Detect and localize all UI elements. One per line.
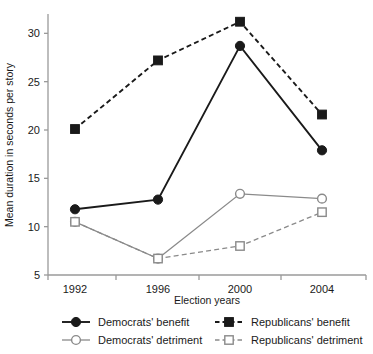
series-line	[75, 194, 322, 259]
data-point-filled-square	[225, 318, 234, 327]
data-point-open-square	[154, 254, 162, 262]
series-line	[75, 212, 322, 258]
y-tick-label: 10	[28, 221, 40, 233]
x-axis-title: Election years	[174, 294, 240, 306]
x-tick-label: 1992	[63, 283, 87, 295]
data-point-open-square	[318, 208, 326, 216]
data-point-filled-square	[318, 110, 327, 119]
data-point-filled-circle	[153, 195, 162, 204]
x-tick-label: 2004	[310, 283, 334, 295]
legend-label: Republicans' benefit	[251, 316, 350, 328]
chart-container: 51015202530 1992199620002004 Mean durati…	[0, 0, 373, 354]
legend-label: Democrats' benefit	[98, 316, 189, 328]
legend-item[interactable]: Republicans' detriment	[215, 334, 363, 346]
y-tick-label: 15	[28, 172, 40, 184]
y-tick-label: 20	[28, 124, 40, 136]
data-point-open-circle	[72, 336, 81, 345]
series-line	[75, 46, 322, 209]
line-chart: 51015202530 1992199620002004 Mean durati…	[0, 0, 373, 354]
data-point-open-square	[236, 242, 244, 250]
data-point-filled-circle	[235, 41, 244, 50]
data-point-filled-circle	[71, 317, 80, 326]
data-point-open-circle	[236, 189, 245, 198]
y-axis-tick-labels: 51015202530	[28, 27, 40, 281]
legend-item[interactable]: Republicans' benefit	[215, 316, 350, 328]
x-axis-ticks	[48, 275, 366, 280]
series-republicans-detriment	[71, 208, 326, 263]
data-point-open-square	[71, 218, 79, 226]
y-axis-title: Mean duration in seconds per story	[3, 62, 15, 227]
data-point-filled-square	[236, 17, 245, 26]
data-point-open-square	[225, 336, 233, 344]
y-tick-label: 25	[28, 76, 40, 88]
series-democrats-benefit	[70, 41, 326, 214]
series-republicans-benefit	[71, 17, 327, 133]
chart-legend: Democrats' benefitRepublicans' benefitDe…	[62, 316, 363, 346]
data-point-filled-circle	[70, 205, 79, 214]
data-point-open-circle	[318, 194, 327, 203]
legend-label: Democrats' detriment	[98, 334, 202, 346]
series-line	[75, 22, 322, 129]
x-tick-label: 1996	[146, 283, 170, 295]
legend-label: Republicans' detriment	[251, 334, 363, 346]
legend-item[interactable]: Democrats' benefit	[62, 316, 189, 328]
series-layer	[70, 17, 326, 263]
data-point-filled-square	[71, 125, 80, 134]
data-point-filled-square	[154, 56, 163, 65]
legend-item[interactable]: Democrats' detriment	[62, 334, 202, 346]
y-tick-label: 30	[28, 27, 40, 39]
y-tick-label: 5	[34, 269, 40, 281]
data-point-filled-circle	[317, 146, 326, 155]
